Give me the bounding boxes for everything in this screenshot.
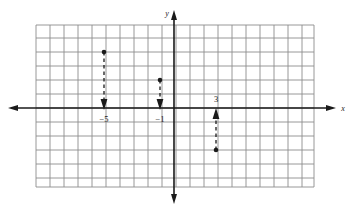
y-axis-label: y bbox=[164, 9, 169, 18]
vector-neg-five-point bbox=[102, 50, 107, 55]
coordinate-plane-svg: −5 −1 3 y x bbox=[0, 0, 350, 210]
label-neg-one: −1 bbox=[155, 114, 164, 124]
x-axis-label: x bbox=[340, 104, 345, 113]
x-axis bbox=[8, 105, 336, 111]
label-three: 3 bbox=[214, 94, 218, 104]
grid-lines bbox=[36, 25, 314, 187]
label-neg-five: −5 bbox=[99, 114, 108, 124]
x-axis-left-arrowhead bbox=[8, 105, 18, 111]
y-axis-bottom-arrowhead bbox=[171, 194, 177, 204]
x-axis-right-arrowhead bbox=[326, 105, 336, 111]
vector-three-point bbox=[214, 148, 219, 153]
vector-neg-one-point bbox=[158, 78, 163, 83]
grid-vertical-lines bbox=[36, 25, 314, 187]
coordinate-grid-figure: −5 −1 3 y x bbox=[0, 0, 350, 210]
y-axis-top-arrowhead bbox=[171, 10, 177, 20]
